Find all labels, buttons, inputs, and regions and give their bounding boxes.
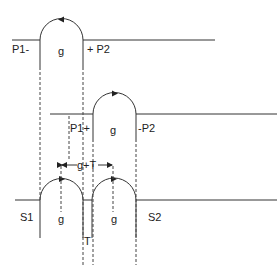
bottom-gap2-label: g — [111, 213, 117, 225]
bottom-arrow-2-icon — [111, 176, 117, 182]
top-right-label: + P2 — [87, 43, 110, 55]
bottom-row: S1 g g S2 T — [15, 176, 277, 247]
bottom-arrow-1-icon — [59, 176, 65, 182]
separator-label: T — [84, 235, 91, 247]
top-arrow-left-icon — [58, 17, 64, 23]
dimension-label: g+T — [77, 159, 97, 171]
top-left-label: P1- — [12, 43, 29, 55]
middle-left-label: P1+ — [70, 122, 90, 134]
middle-arrow-right-icon — [112, 91, 118, 97]
bottom-arch-2 — [92, 178, 136, 238]
dimension-arrow-right-icon — [107, 162, 113, 168]
bottom-right-label: S2 — [148, 211, 161, 223]
top-gap-label: g — [58, 45, 64, 57]
bottom-gap1-label: g — [58, 213, 64, 225]
middle-gap-label: g — [110, 124, 116, 136]
dimension-arrow-left-icon — [61, 162, 67, 168]
middle-row: P1+ g -P2 — [50, 91, 277, 143]
dimension-g-plus-t: g+T — [61, 159, 113, 171]
diagram-canvas: P1- g + P2 P1+ g -P2 S1 g g S2 T — [0, 0, 278, 277]
middle-right-label: -P2 — [138, 122, 155, 134]
top-row: P1- g + P2 — [12, 17, 215, 71]
bottom-left-label: S1 — [20, 211, 33, 223]
